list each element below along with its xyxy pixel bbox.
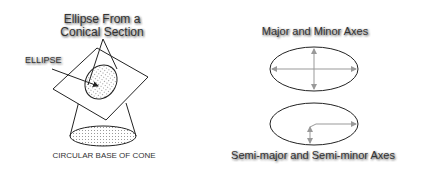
- base-label: CIRCULAR BASE OF CONE: [52, 151, 155, 160]
- major-minor-title: Major and Minor Axes: [262, 25, 369, 37]
- cone-base-ellipse: [70, 126, 136, 146]
- diagram-root: Ellipse From a Ellipse From a Conical Se…: [0, 0, 424, 174]
- left-title-line1: Ellipse From a: [64, 12, 141, 26]
- diagram-canvas: Ellipse From a Ellipse From a Conical Se…: [0, 0, 424, 174]
- left-title-line2: Conical Section: [60, 25, 143, 39]
- axes-figure: Major and Minor Axes Major and Minor Axe…: [231, 25, 396, 162]
- semi-axes-title: Semi-major and Semi-minor Axes: [231, 149, 395, 161]
- axis-joint: [310, 124, 316, 127]
- ellipse-label: ELLIPSE: [25, 55, 62, 65]
- conical-section-figure: Ellipse From a Ellipse From a Conical Se…: [25, 12, 156, 160]
